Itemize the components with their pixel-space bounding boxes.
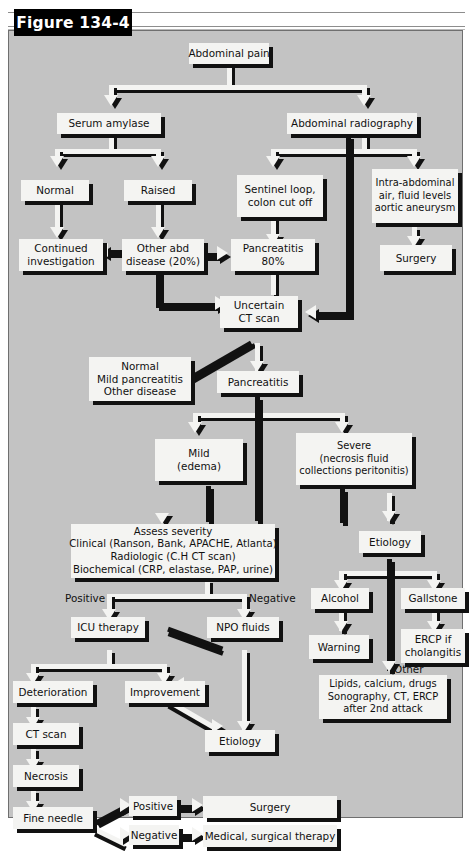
edge-other-down-spine — [156, 271, 161, 307]
node-pancreatitis-80[interactable]: Pancreatitis 80% — [231, 239, 315, 271]
edge-pain-stem — [227, 65, 232, 85]
figure-number-banner: Figure 134-4 — [14, 9, 132, 36]
node-lipids-calcium-drugs[interactable]: Lipids, calcium, drugs Sonography, CT, E… — [319, 675, 447, 719]
edge-radiography-to-uncertain-spine — [346, 136, 351, 316]
node-surgery-bottom[interactable]: Surgery — [203, 796, 337, 818]
node-continued-investigation[interactable]: Continued investigation — [19, 239, 103, 271]
node-other-abd-disease[interactable]: Other abd disease (20%) — [122, 239, 204, 271]
node-normal[interactable]: Normal — [21, 180, 89, 201]
label-negative-severity: Negative — [249, 592, 296, 604]
node-etiology-bottom[interactable]: Etiology — [205, 730, 275, 752]
edge-etiology-other-spine — [387, 559, 392, 671]
edge-radiography-bus — [271, 149, 417, 154]
edge-npo-to-etiology — [242, 650, 247, 730]
node-improvement[interactable]: Improvement — [125, 681, 205, 703]
node-assess-severity[interactable]: Assess severity Clinical (Ranson, Bank, … — [71, 524, 275, 578]
label-other-etiology: Other — [394, 663, 424, 675]
node-serum-amylase[interactable]: Serum amylase — [57, 113, 161, 134]
node-raised[interactable]: Raised — [124, 180, 192, 201]
edge-uncertain-right-in — [315, 312, 351, 317]
edge-pancreatitis80-down — [271, 271, 276, 295]
figure-root: Figure 134-4 — [0, 0, 473, 851]
node-alcohol[interactable]: Alcohol — [311, 588, 369, 609]
label-positive-needle: Positive — [129, 796, 177, 816]
node-gallstone[interactable]: Gallstone — [401, 588, 465, 609]
node-fine-needle[interactable]: Fine needle — [13, 807, 93, 829]
edge-pain-bus — [109, 85, 367, 90]
node-abdominal-radiography[interactable]: Abdominal radiography — [287, 113, 417, 134]
edge-severe-down — [340, 489, 345, 523]
node-ercp-if-cholangitis[interactable]: ERCP if cholangitis — [401, 629, 465, 663]
node-intra-abdominal-air[interactable]: Intra-abdominal air, fluid levels aortic… — [372, 169, 458, 223]
node-severe[interactable]: Severe (necrosis fluid collections perit… — [296, 433, 412, 485]
edge-icu-bus — [31, 664, 167, 669]
edge-mild-down — [206, 486, 211, 522]
node-surgery-top[interactable]: Surgery — [380, 245, 452, 271]
node-ct-scan[interactable]: CT scan — [13, 723, 79, 745]
edge-assess-bus — [107, 594, 247, 599]
node-medical-surgical-therapy[interactable]: Medical, surgical therapy — [203, 825, 337, 847]
edge-icu-stem — [107, 650, 112, 664]
label-positive-severity: Positive — [65, 592, 105, 604]
label-negative-needle: Negative — [129, 825, 179, 845]
node-mild-edema[interactable]: Mild (edema) — [155, 439, 243, 481]
diagram-canvas: Abdominal pain Serum amylase Abdominal r… — [9, 31, 462, 817]
node-pancreatitis[interactable]: Pancreatitis — [217, 371, 299, 393]
node-abdominal-pain[interactable]: Abdominal pain — [189, 43, 269, 64]
node-uncertain-ct-scan[interactable]: Uncertain CT scan — [220, 296, 298, 328]
node-icu-therapy[interactable]: ICU therapy — [71, 617, 145, 638]
node-etiology-right[interactable]: Etiology — [359, 531, 421, 553]
node-normal-mild-other[interactable]: Normal Mild pancreatitis Other disease — [89, 357, 191, 401]
edge-radiography-stem — [362, 133, 367, 149]
diagram-panel: Abdominal pain Serum amylase Abdominal r… — [8, 30, 463, 818]
node-warning[interactable]: Warning — [309, 635, 369, 659]
edge-amylase-bus — [55, 149, 161, 154]
edge-amylase-stem — [109, 133, 114, 149]
node-necrosis[interactable]: Necrosis — [13, 765, 79, 787]
node-deterioration[interactable]: Deterioration — [13, 681, 93, 703]
edge-pancreatitis-to-assess-spine — [255, 397, 260, 521]
edge-pancreatitis-bus — [193, 413, 345, 418]
node-npo-fluids[interactable]: NPO fluids — [207, 617, 279, 638]
edge-assess-stem — [205, 580, 210, 594]
node-sentinel-loop[interactable]: Sentinel loop, colon cut off — [237, 175, 323, 217]
